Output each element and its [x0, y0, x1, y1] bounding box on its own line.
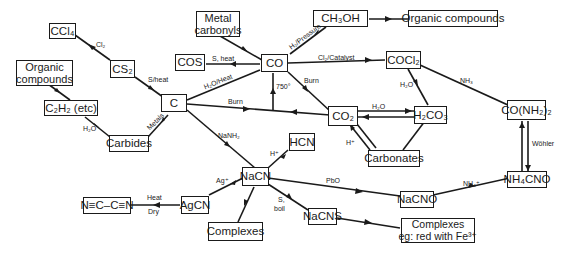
node-c: C: [161, 94, 187, 112]
node-h2co3: H₂CO₃: [414, 106, 447, 124]
label-nanh2: NaNH₂: [218, 132, 240, 139]
node-ccl4: CCl₄: [49, 23, 76, 39]
label-750: 750°: [276, 83, 290, 90]
node-nacn: NaCN: [242, 167, 269, 186]
complexes-fe-line1: Complexes: [412, 219, 465, 231]
node-nacns: NaCNS: [308, 208, 337, 225]
label-pbo: PbO: [326, 177, 340, 184]
label-s-boil-1: S,: [278, 196, 285, 203]
node-c2h2: C₂H₂ (etc): [44, 100, 98, 116]
node-organic-compounds-top: Organic compounds: [408, 10, 498, 27]
complexes-fe-line2: eg: red with Fe³⁺: [399, 231, 478, 243]
label-nh3: NH₃: [460, 77, 473, 84]
node-cos: COS: [175, 54, 205, 71]
node-complexes: Complexes: [208, 222, 263, 241]
label-h2o-carbides: H₂O: [83, 125, 96, 132]
node-urea: CO(NH₂)₂: [507, 100, 546, 120]
label-s-heat-cos: S, heat: [212, 55, 234, 62]
node-ch3oh: CH₃OH: [313, 10, 368, 27]
node-agcn: AgCN: [181, 196, 209, 214]
node-carbides: Carbides: [109, 135, 149, 152]
label-burn-co: Burn: [304, 77, 319, 84]
node-nacno: NaCNO: [400, 191, 434, 208]
node-cocl2: COCl₂: [386, 51, 421, 69]
label-s-heat-cs2: S/heat: [148, 76, 168, 83]
label-dry: Dry: [148, 208, 159, 215]
label-ag-plus: Ag⁺: [216, 177, 229, 185]
node-organic-compounds-left: Organic compounds: [16, 60, 73, 86]
label-h2o-cocl2: H₂O: [400, 81, 413, 88]
node-metal-carbonyls: Metal carbonyls: [196, 11, 240, 37]
label-h2o-co2: H₂O: [372, 103, 385, 110]
node-cyanogen: N≡C–C≡N: [83, 197, 131, 214]
label-heat: Heat: [147, 194, 162, 201]
node-hcn: HCN: [289, 133, 315, 151]
node-nh4cno: NH₄CNO: [507, 171, 547, 188]
label-nh4-plus: NH₄⁺: [463, 180, 480, 188]
label-s-boil-2: boil: [274, 205, 285, 212]
label-cl2-catalyst: Cl₂/Catalyst: [318, 54, 355, 61]
label-h-plus-carbonates: H⁺: [346, 139, 355, 147]
label-h-plus-hcn: H⁺: [270, 150, 279, 158]
node-complexes-fe: Complexes eg: red with Fe³⁺: [401, 218, 475, 243]
label-cl2: Cl₂: [96, 41, 105, 48]
label-burn-c: Burn: [228, 98, 243, 105]
node-co2: CO₂: [328, 106, 358, 126]
node-co: CO: [261, 54, 288, 72]
label-wohler: Wöhler: [532, 140, 554, 147]
node-cs2: CS₂: [110, 60, 135, 78]
node-carbonates: Carbonates: [368, 150, 420, 167]
